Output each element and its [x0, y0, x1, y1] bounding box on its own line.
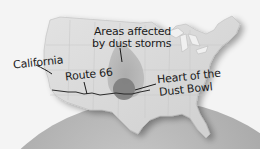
label-areas-affected-line1: Areas affected	[94, 26, 171, 37]
label-areas-affected-line2: by dust storms	[92, 38, 171, 49]
dust-bowl-heart	[113, 78, 135, 100]
